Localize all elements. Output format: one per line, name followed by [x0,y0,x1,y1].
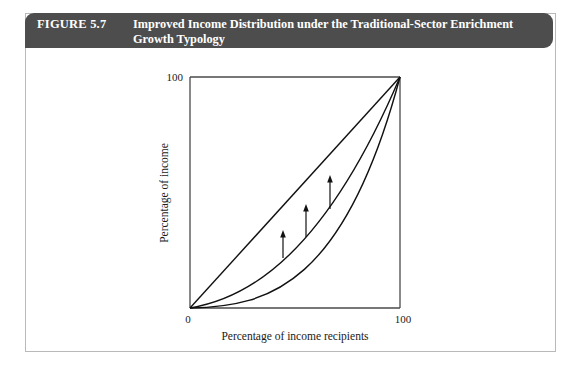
figure-root: FIGURE 5.7 Improved Income Distribution … [0,0,580,376]
improvement-arrow-1 [280,230,286,258]
figure-caption-line-1: Improved Income Distribution under the T… [133,17,539,32]
y-axis-tick-100: 100 [167,71,184,83]
figure-title-bar: FIGURE 5.7 Improved Income Distribution … [25,13,553,48]
figure-caption-line-2: Growth Typology [133,32,539,47]
figure-number-label: FIGURE 5.7 [25,17,133,32]
figure-caption: Improved Income Distribution under the T… [133,17,553,47]
chart-area: 100 0 100 Percentage of income recipient… [25,48,556,352]
x-axis-title: Percentage of income recipients [221,330,369,343]
improvement-arrow-2 [303,204,309,237]
lorenz-curve-chart: 100 0 100 Percentage of income recipient… [25,48,556,352]
figure-title-inner: FIGURE 5.7 Improved Income Distribution … [25,13,553,48]
x-axis-tick-100: 100 [395,313,412,325]
y-axis-title: Percentage of income [158,143,171,243]
x-axis-tick-0: 0 [185,313,191,325]
series-line-of-equality [190,77,400,308]
